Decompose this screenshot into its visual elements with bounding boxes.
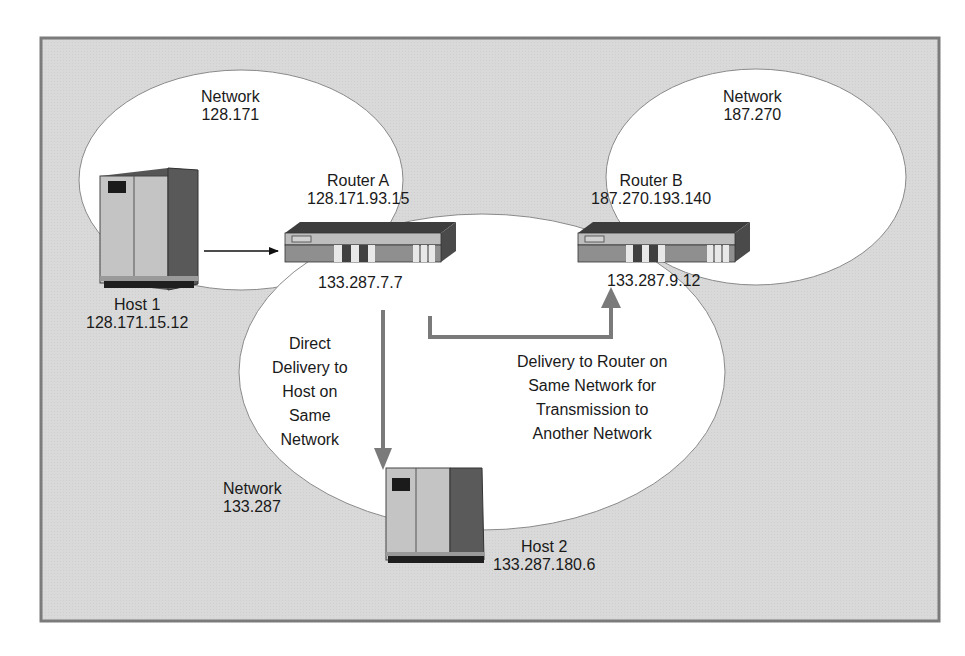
host-2-server-icon [386, 468, 484, 563]
router-name: Router A [307, 172, 409, 190]
router-b-label: Router B 187.270.193.140 [591, 172, 711, 208]
annotation-line: Direct [272, 332, 348, 356]
router-a-lower-ip: 133.287.7.7 [318, 274, 403, 292]
annotation-line: Delivery to Router on [517, 350, 667, 374]
annotation-line: Transmission to [517, 398, 667, 422]
annotation-line: Delivery to [272, 356, 348, 380]
annotation-line: Same Network for [517, 374, 667, 398]
network-address: 128.171 [201, 106, 260, 124]
host-1-label: Host 1 128.171.15.12 [86, 296, 188, 332]
router-delivery-annotation: Delivery to Router on Same Network for T… [517, 350, 667, 446]
network-address: 187.270 [723, 106, 782, 124]
host-2-label: Host 2 133.287.180.6 [493, 538, 595, 574]
annotation-line: Same [272, 404, 348, 428]
network-128-171-label: Network 128.171 [201, 88, 260, 124]
network-187-270-label: Network 187.270 [723, 88, 782, 124]
router-a-label: Router A 128.171.93.15 [307, 172, 409, 208]
router-name: Router B [591, 172, 711, 190]
host-ip: 128.171.15.12 [86, 314, 188, 332]
host-name: Host 1 [86, 296, 188, 314]
router-upper-ip: 128.171.93.15 [307, 190, 409, 208]
router-upper-ip: 187.270.193.140 [591, 190, 711, 208]
router-a-icon [285, 222, 456, 262]
network-label-text: Network [201, 88, 260, 106]
annotation-line: Network [272, 428, 348, 452]
network-address: 133.287 [223, 498, 282, 516]
network-label-text: Network [723, 88, 782, 106]
host-1-server-icon [100, 168, 198, 290]
annotation-line: Host on [272, 380, 348, 404]
direct-delivery-annotation: Direct Delivery to Host on Same Network [272, 332, 348, 452]
router-b-lower-ip: 133.287.9.12 [607, 272, 700, 290]
annotation-line: Another Network [517, 422, 667, 446]
host-name: Host 2 [493, 538, 595, 556]
router-b-icon [578, 222, 750, 262]
network-label-text: Network [223, 480, 282, 498]
network-133-287-label: Network 133.287 [223, 480, 282, 516]
host-ip: 133.287.180.6 [493, 556, 595, 574]
